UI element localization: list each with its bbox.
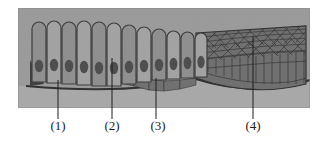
- callout-3-label: (3): [150, 118, 165, 133]
- histology-diagram: (1)(2)(3)(4): [0, 0, 327, 141]
- callout-4-label: (4): [245, 118, 260, 133]
- callout-2-label: (2): [104, 118, 119, 133]
- image-panel: [18, 8, 310, 108]
- callout-1-label: (1): [50, 118, 65, 133]
- texture-overlay: [18, 8, 310, 108]
- figure-container: (1)(2)(3)(4): [0, 0, 327, 141]
